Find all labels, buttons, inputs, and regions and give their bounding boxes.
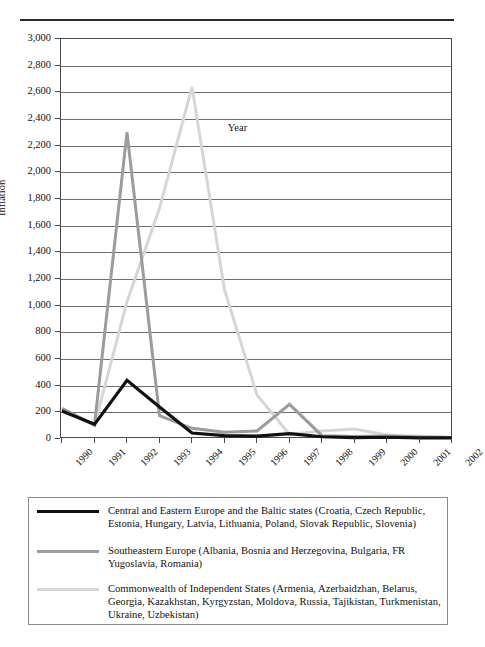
y-axis-tick-label: 200 [35, 406, 51, 416]
legend-label: Central and Eastern Europe and the Balti… [108, 504, 441, 530]
x-axis-tick-mark [94, 438, 95, 443]
x-axis-tick-label: 1997 [300, 446, 322, 468]
x-axis-tick-label: 2001 [430, 446, 452, 468]
x-axis-title: Year [0, 122, 475, 133]
x-axis-tick-mark [289, 438, 290, 443]
y-axis-tick-label: 2,000 [27, 166, 51, 176]
y-axis-tick-mark [55, 438, 60, 439]
legend: Central and Eastern Europe and the Balti… [28, 497, 448, 625]
legend-item: Southeastern Europe (Albania, Bosnia and… [37, 544, 441, 570]
x-axis-tick-mark [61, 438, 62, 443]
y-axis-tick-label: 400 [35, 380, 51, 390]
x-axis-tick-mark [451, 438, 452, 443]
x-axis-tick-mark [191, 438, 192, 443]
plot-area [60, 38, 452, 438]
x-axis-tick-mark [354, 438, 355, 443]
chart-container: Inflation 3,0002,8002,6002,4002,2002,000… [0, 30, 475, 490]
x-axis-tick-label: 1996 [268, 446, 290, 468]
y-axis-tick-label: 0 [46, 433, 51, 443]
x-axis-tick-mark [159, 438, 160, 443]
y-axis-tick-label: 1,800 [27, 193, 51, 203]
y-axis-title: Inflation [0, 180, 7, 216]
y-axis-tick-label: 3,000 [27, 33, 51, 43]
x-axis-tick-label: 1990 [73, 446, 95, 468]
x-axis-tick-label: 1998 [333, 446, 355, 468]
y-axis-tick-label: 2,200 [27, 140, 51, 150]
x-axis-tick-label: 2000 [398, 446, 420, 468]
series-line [62, 87, 452, 437]
legend-label: Southeastern Europe (Albania, Bosnia and… [108, 544, 441, 570]
y-axis-tick-label: 2,800 [27, 60, 51, 70]
y-axis-tick-label: 1,200 [27, 273, 51, 283]
x-axis-tick-label: 2002 [463, 446, 485, 468]
x-axis-tick-label: 1992 [138, 446, 160, 468]
legend-label: Commonwealth of Independent States (Arme… [108, 582, 441, 622]
x-axis-tick-label: 1994 [203, 446, 225, 468]
y-axis-tick-label: 1,400 [27, 246, 51, 256]
x-axis-tick-mark [321, 438, 322, 443]
legend-item: Central and Eastern Europe and the Balti… [37, 504, 441, 530]
y-axis-tick-label: 2,600 [27, 86, 51, 96]
x-axis-tick-mark [224, 438, 225, 443]
y-axis-tick-label: 1,600 [27, 220, 51, 230]
x-axis-tick-mark [419, 438, 420, 443]
x-axis-tick-label: 1993 [170, 446, 192, 468]
legend-swatch [37, 588, 99, 591]
legend-swatch [37, 510, 99, 513]
x-axis-tick-label: 1995 [235, 446, 257, 468]
x-axis-tick-mark [256, 438, 257, 443]
legend-item: Commonwealth of Independent States (Arme… [37, 582, 441, 622]
x-axis-tick-label: 1999 [365, 446, 387, 468]
x-axis-tick-mark [386, 438, 387, 443]
x-axis-tick-mark [126, 438, 127, 443]
y-axis-tick-label: 600 [35, 353, 51, 363]
header-rule [20, 19, 454, 21]
legend-swatch [37, 550, 99, 553]
y-axis-tick-label: 1,000 [27, 300, 51, 310]
series-layer [61, 39, 453, 439]
x-axis-tick-label: 1991 [105, 446, 127, 468]
y-axis-tick-label: 800 [35, 326, 51, 336]
